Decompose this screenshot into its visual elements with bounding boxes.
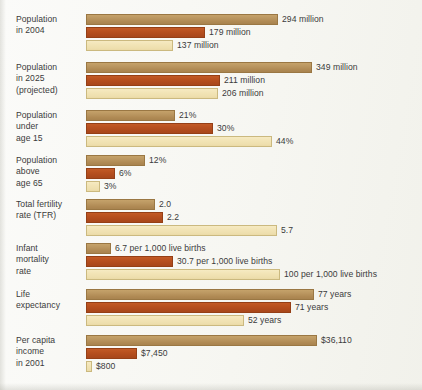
bar-value-label: 21% [175,110,196,121]
bar-series-2 [86,27,205,38]
group-label-line: Population [16,14,84,25]
bar-series-3 [86,269,280,280]
paper-texture-overlay [0,0,422,390]
bar-row: 179 million [86,27,324,38]
group-label-line: under [16,121,84,132]
group-label-line: Population [16,155,84,166]
bar-series-1 [86,335,317,346]
bar-value-label: 211 million [220,75,265,86]
bar-value-label: $7,450 [137,348,168,359]
group-label: Total fertilityrate (TFR) [16,199,84,222]
group-label: Per capitaincomein 2001 [16,335,84,369]
bar-series-3 [86,315,244,326]
bar-row: 71 years [86,302,351,313]
bar-value-label: 77 years [314,289,351,300]
bar-row: $36,110 [86,335,352,346]
bar-value-label: 30% [213,123,234,134]
bar-value-label: 206 million [218,88,264,99]
group-label-line: Infant [16,243,84,254]
bar-series-2 [86,168,115,179]
group-bars: 349 million211 million206 million [86,62,358,101]
bar-row: 52 years [86,315,351,326]
group-label-line: age 65 [16,178,84,189]
bar-value-label: 179 million [205,27,251,38]
bar-series-3 [86,88,218,99]
group-label: Infantmortalityrate [16,243,84,277]
group-label-line: Total fertility [16,199,84,210]
bar-series-3 [86,40,173,51]
bar-series-1 [86,289,314,300]
bar-row: 30.7 per 1,000 live births [86,256,377,267]
bar-series-3 [86,225,277,236]
bar-row: $800 [86,361,352,372]
group-label-line: age 15 [16,133,84,144]
group-label-line: above [16,166,84,177]
bar-row: 21% [86,110,293,121]
bar-row: 137 million [86,40,324,51]
bar-series-1 [86,199,155,210]
group-label-line: income [16,346,84,357]
bar-value-label: $36,110 [317,335,352,346]
bar-value-label: $800 [92,361,115,372]
group-bars: 294 million179 million137 million [86,14,324,53]
group-label-line: rate (TFR) [16,210,84,221]
bar-value-label: 2.2 [163,212,179,223]
page-bottom-shadow [0,383,422,390]
bar-row: 5.7 [86,225,293,236]
group-label-line: in 2004 [16,25,84,36]
bar-value-label: 6.7 per 1,000 live births [111,243,206,254]
bar-series-1 [86,62,312,73]
bar-row: 2.2 [86,212,293,223]
bar-value-label: 52 years [244,315,281,326]
group-label: Populationin 2004 [16,14,84,37]
bar-series-3 [86,136,272,147]
bar-value-label: 12% [145,155,166,166]
bar-value-label: 71 years [291,302,328,313]
bar-value-label: 137 million [173,40,219,51]
bar-row: 6.7 per 1,000 live births [86,243,377,254]
page-edge-shadow [0,0,6,390]
bar-row: 211 million [86,75,358,86]
bar-row: 3% [86,181,166,192]
bar-series-2 [86,256,173,267]
group-label-line: in 2025 [16,73,84,84]
bar-row: 294 million [86,14,324,25]
bar-row: 2.0 [86,199,293,210]
bar-row: 349 million [86,62,358,73]
bar-row: 12% [86,155,166,166]
bar-value-label: 3% [100,181,117,192]
bar-value-label: 349 million [312,62,358,73]
bar-value-label: 100 per 1,000 live births [280,269,377,280]
group-bars: 21%30%44% [86,110,293,149]
bar-row: 44% [86,136,293,147]
group-label-line: Life [16,289,84,300]
bar-series-2 [86,75,220,86]
group-label: Populationunderage 15 [16,110,84,144]
group-bars: 77 years71 years52 years [86,289,351,328]
group-bars: $36,110$7,450$800 [86,335,352,374]
bar-series-2 [86,348,137,359]
bar-series-1 [86,14,278,25]
bar-value-label: 30.7 per 1,000 live births [173,256,272,267]
bar-series-2 [86,212,163,223]
group-bars: 6.7 per 1,000 live births30.7 per 1,000 … [86,243,377,282]
bar-series-1 [86,155,145,166]
group-label-line: rate [16,266,84,277]
group-label-line: Per capita [16,335,84,346]
group-label-line: mortality [16,254,84,265]
group-label-line: (projected) [16,85,84,96]
bar-row: 100 per 1,000 live births [86,269,377,280]
bar-value-label: 2.0 [155,199,171,210]
bar-series-2 [86,123,213,134]
group-label-line: Population [16,110,84,121]
group-label-line: in 2001 [16,358,84,369]
bar-row: 6% [86,168,166,179]
group-label-line: expectancy [16,300,84,311]
group-label: Populationin 2025(projected) [16,62,84,96]
bar-row: 77 years [86,289,351,300]
bar-value-label: 5.7 [277,225,293,236]
bar-value-label: 294 million [278,14,324,25]
bar-series-1 [86,243,111,254]
bar-series-2 [86,302,291,313]
comparison-bar-chart: Populationin 2004294 million179 million1… [0,0,422,390]
